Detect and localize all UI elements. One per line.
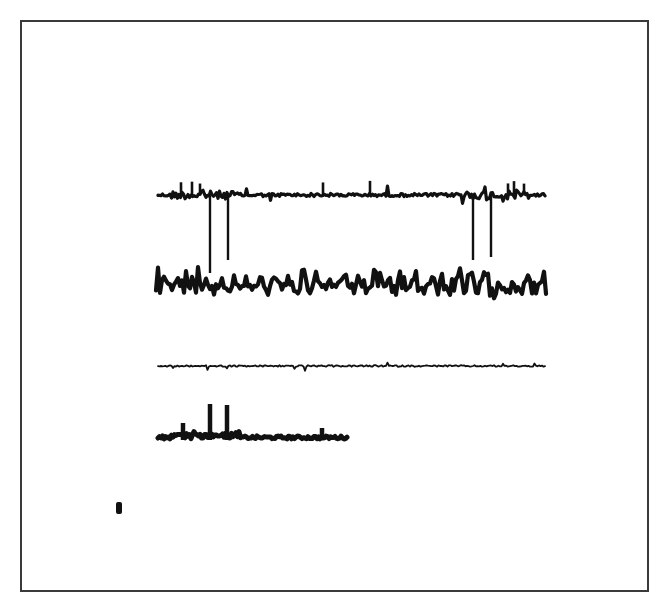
calibration-marker <box>116 502 122 514</box>
trace-3 <box>158 363 545 371</box>
signal-plot <box>0 0 662 612</box>
trace-2 <box>156 267 546 298</box>
trace-1 <box>158 181 545 203</box>
trace-4 <box>158 404 347 440</box>
marker-lines <box>210 196 491 273</box>
